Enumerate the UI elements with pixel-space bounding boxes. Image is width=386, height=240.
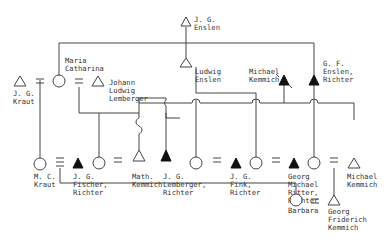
label-line: Richter	[230, 188, 261, 197]
person-georg-friderich-kemmich: Georg Friderich Kemmich	[328, 195, 367, 232]
female-circle-icon	[308, 157, 320, 169]
label-line: Enslen	[195, 75, 221, 84]
person-michael-kemmich-top: Michael Kemmich	[249, 67, 292, 88]
male-triangle-icon	[92, 76, 104, 86]
male-filled-triangle-icon	[289, 158, 299, 168]
label-line: Richter	[323, 75, 354, 84]
label-line: Kraut	[13, 97, 35, 106]
person-jg-enslen: J. G. Enslen	[181, 15, 220, 32]
marriage-sign	[75, 79, 83, 83]
female-circle-icon	[290, 194, 302, 206]
label-line: Richter	[163, 188, 194, 197]
male-triangle-icon	[348, 158, 360, 168]
female-circle-icon	[34, 158, 46, 170]
label-line: Catharina	[65, 64, 104, 73]
male-triangle-icon	[133, 150, 145, 161]
male-triangle-icon	[181, 17, 191, 26]
marriage-sign	[272, 158, 280, 162]
label-line: Kemmich	[249, 75, 279, 84]
male-triangle-icon	[328, 195, 340, 205]
person-math-kemmich: Math. Kemmich	[132, 150, 162, 189]
person-gf-enslen: G. F. Enslen, Richter	[309, 59, 354, 85]
person-ludwig-enslen: Ludwig Enslen	[180, 58, 221, 84]
person-daughter-2	[190, 157, 202, 169]
marriage-sign	[330, 158, 338, 162]
person-daughter-3	[250, 157, 262, 169]
male-filled-triangle-icon	[309, 75, 319, 85]
label-line: Kemmich	[328, 223, 358, 232]
genealogy-diagram: J. G. Enslen J. G. Kraut Maria Catharina…	[0, 0, 386, 240]
male-triangle-icon	[14, 76, 26, 86]
label-line: Barbara	[288, 206, 318, 215]
marriage-sign	[213, 158, 221, 162]
person-daughter-4	[308, 157, 320, 169]
label-line: Richter	[73, 188, 104, 197]
person-mc-kraut: M. C. Kraut	[34, 158, 56, 189]
person-jg-kraut: J. G. Kraut	[13, 76, 35, 106]
female-circle-icon	[190, 157, 202, 169]
label-line: Enslen	[194, 23, 220, 32]
person-johann-ludwig-lemberger: Johann Ludwig Lemberger	[92, 76, 149, 103]
female-circle-icon	[250, 157, 262, 169]
person-daughter-1	[93, 157, 105, 169]
female-circle-icon	[53, 75, 65, 87]
male-filled-triangle-icon	[231, 158, 241, 168]
male-triangle-icon	[180, 58, 192, 67]
male-filled-triangle-icon	[73, 158, 83, 168]
label-line: Kraut	[34, 180, 56, 189]
label-line: Lemberger	[109, 94, 149, 103]
male-filled-triangle-icon	[279, 75, 289, 85]
male-filled-triangle-icon	[161, 150, 171, 161]
female-circle-icon	[93, 157, 105, 169]
person-michael-kemmich-bottom: Michael Kemmich	[347, 158, 377, 189]
marriage-sign	[56, 158, 64, 166]
label-line: Kemmich	[347, 180, 377, 189]
marriage-sign	[114, 158, 122, 162]
label-line: Kemmich	[132, 180, 162, 189]
person-jg-lemberger: J. G. Lemberger, Richter	[161, 150, 206, 197]
